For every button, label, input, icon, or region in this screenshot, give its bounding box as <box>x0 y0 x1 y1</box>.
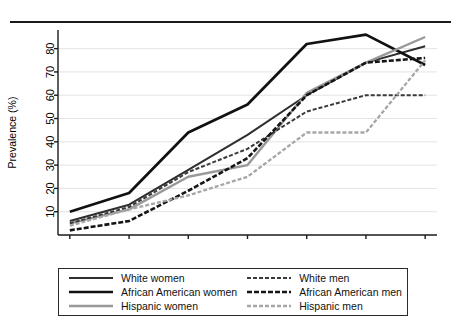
legend-label: Hispanic women <box>121 300 198 312</box>
legend-line-swatch <box>246 300 292 312</box>
legend-entry[interactable]: Hispanic men <box>237 299 407 313</box>
x-tick-group: 20304050607080 <box>64 235 432 240</box>
y-tick-label: 40 <box>44 136 56 148</box>
line-chart-svg: 1020304050607080 20304050607080 Age grou… <box>0 26 459 240</box>
legend-line-swatch <box>68 300 114 312</box>
y-tick-label: 50 <box>44 112 56 124</box>
legend: White womenWhite menAfrican American wom… <box>58 268 408 316</box>
top-divider-rule <box>10 21 451 23</box>
legend-label: White men <box>299 272 349 284</box>
legend-line-swatch <box>68 272 114 284</box>
legend-label: African American men <box>299 286 402 298</box>
legend-entry[interactable]: White men <box>237 271 407 285</box>
legend-line-swatch <box>246 286 292 298</box>
legend-line-swatch <box>246 272 292 284</box>
figure-root: 1020304050607080 20304050607080 Age grou… <box>0 0 459 336</box>
series-line <box>70 60 425 225</box>
legend-entry[interactable]: Hispanic women <box>59 299 237 313</box>
legend-line-swatch <box>68 286 114 298</box>
legend-grid: White womenWhite menAfrican American wom… <box>59 269 407 315</box>
legend-entry[interactable]: African American women <box>59 285 237 299</box>
y-tick-label: 30 <box>44 159 56 171</box>
chart-plot-area: 1020304050607080 20304050607080 Age grou… <box>0 26 459 240</box>
legend-entry[interactable]: African American men <box>237 285 407 299</box>
y-tick-label: 60 <box>44 89 56 101</box>
gridlines-group <box>58 49 437 212</box>
y-tick-label: 70 <box>44 66 56 78</box>
y-tick-label: 80 <box>44 43 56 55</box>
legend-label: White women <box>121 272 185 284</box>
y-tick-label: 10 <box>44 206 56 218</box>
axis-lines-group <box>58 30 437 235</box>
legend-entry[interactable]: White women <box>59 271 237 285</box>
series-line <box>70 58 425 230</box>
y-axis-title: Prevalence (%) <box>6 97 18 169</box>
y-tick-label: 20 <box>44 182 56 194</box>
legend-label: African American women <box>121 286 237 298</box>
legend-label: Hispanic men <box>299 300 363 312</box>
data-series-group <box>70 35 425 231</box>
y-tick-group: 1020304050607080 <box>44 43 58 218</box>
